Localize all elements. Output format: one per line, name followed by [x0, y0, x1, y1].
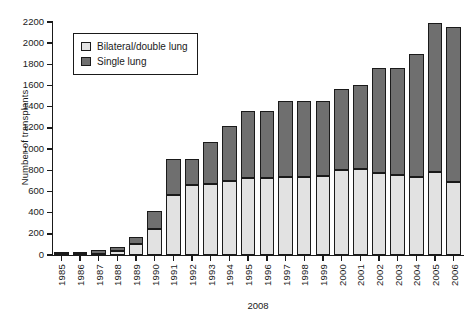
bar-segment-bilateral	[353, 169, 368, 255]
bar-segment-single	[129, 237, 144, 244]
y-tick-label: 600	[28, 185, 44, 196]
y-tick-label: 1400	[23, 100, 44, 111]
legend-swatch-single-icon	[81, 57, 91, 66]
x-axis-line	[52, 255, 464, 256]
y-tick-label: 200	[28, 227, 44, 238]
x-tick-mark	[98, 256, 99, 261]
legend-item-bilateral: Bilateral/double lung	[81, 39, 188, 54]
x-tick-mark	[266, 256, 267, 261]
x-tick-mark	[397, 256, 398, 261]
bar-segment-single	[222, 126, 237, 181]
x-axis-title: 2008	[52, 300, 464, 311]
bar-segment-single	[110, 247, 125, 252]
legend-label-bilateral: Bilateral/double lung	[97, 41, 188, 52]
y-tick-label: 1600	[23, 79, 44, 90]
lung-transplant-stacked-bar-chart: Number of transplants 020040060080010001…	[0, 0, 475, 320]
x-tick-mark	[416, 256, 417, 261]
bar-segment-single	[372, 68, 387, 174]
x-tick-mark	[360, 256, 361, 261]
x-tick-label: 1993	[206, 264, 216, 286]
bar-segment-bilateral	[260, 178, 275, 255]
x-tick-mark	[191, 256, 192, 261]
x-tick-label: 2005	[430, 264, 440, 286]
bar-segment-single	[91, 250, 106, 254]
x-tick-label: 1994	[224, 264, 234, 286]
bar-segment-single	[203, 142, 218, 184]
bar-segment-bilateral	[334, 170, 349, 255]
bar-segment-single	[260, 111, 275, 178]
x-tick-mark	[173, 256, 174, 261]
bar-segment-single	[278, 101, 293, 176]
x-tick-mark	[210, 256, 211, 261]
bar-segment-single	[390, 68, 405, 175]
bar-segment-bilateral	[185, 185, 200, 255]
bar-segment-bilateral	[241, 178, 256, 255]
x-tick-mark	[117, 256, 118, 261]
bar-segment-single	[147, 211, 162, 229]
bar-segment-single	[166, 159, 181, 195]
x-tick-label: 2002	[374, 264, 384, 286]
y-tick-label: 800	[28, 164, 44, 175]
x-tick-label: 1985	[56, 264, 66, 286]
bar-segment-single	[353, 85, 368, 170]
x-tick-label: 1997	[281, 264, 291, 286]
x-tick-mark	[378, 256, 379, 261]
x-tick-label: 2003	[393, 264, 403, 286]
legend-label-single: Single lung	[97, 56, 146, 67]
x-tick-mark	[247, 256, 248, 261]
x-tick-label: 1988	[112, 264, 122, 286]
x-tick-label: 2000	[337, 264, 347, 286]
bar-segment-single	[54, 252, 69, 254]
x-tick-mark	[453, 256, 454, 261]
x-tick-mark	[229, 256, 230, 261]
x-tick-mark	[341, 256, 342, 261]
y-tick-label: 0	[39, 249, 44, 260]
y-tick-label: 2200	[23, 16, 44, 27]
bar-segment-bilateral	[297, 177, 312, 255]
x-tick-label: 1992	[187, 264, 197, 286]
bar-segment-single	[409, 54, 424, 177]
x-tick-label: 1996	[262, 264, 272, 286]
x-tick-mark	[154, 256, 155, 261]
bar-segment-bilateral	[166, 195, 181, 255]
x-tick-mark	[304, 256, 305, 261]
legend-swatch-bilateral-icon	[81, 42, 91, 51]
y-tick-label: 1800	[23, 58, 44, 69]
y-tick-label: 2000	[23, 37, 44, 48]
x-tick-mark	[285, 256, 286, 261]
x-tick-label: 1995	[243, 264, 253, 286]
x-tick-mark	[61, 256, 62, 261]
bar-segment-single	[185, 159, 200, 185]
x-tick-mark	[135, 256, 136, 261]
bar-segment-bilateral	[278, 177, 293, 255]
x-tick-label: 1986	[75, 264, 85, 286]
bar-segment-bilateral	[409, 177, 424, 255]
x-tick-label: 2004	[411, 264, 421, 286]
x-tick-label: 1987	[94, 264, 104, 286]
x-tick-mark	[322, 256, 323, 261]
x-tick-mark	[79, 256, 80, 261]
x-tick-label: 1991	[168, 264, 178, 286]
bar-segment-bilateral	[147, 229, 162, 255]
legend-item-single: Single lung	[81, 54, 188, 69]
bar-segment-bilateral	[446, 182, 461, 255]
bar-segment-bilateral	[372, 173, 387, 255]
bar-segment-bilateral	[203, 184, 218, 255]
x-tick-label: 1990	[150, 264, 160, 286]
y-tick-label: 1200	[23, 121, 44, 132]
x-tick-label: 2006	[449, 264, 459, 286]
x-tick-label: 2001	[355, 264, 365, 286]
bar-segment-bilateral	[316, 176, 331, 255]
bar-segment-single	[297, 101, 312, 176]
bar-segment-bilateral	[222, 181, 237, 255]
bar-segment-single	[73, 252, 88, 254]
bar-segment-single	[316, 101, 331, 175]
x-tick-label: 1999	[318, 264, 328, 286]
bar-segment-single	[446, 27, 461, 182]
bar-segment-single	[334, 89, 349, 171]
bar-segment-single	[241, 111, 256, 178]
x-tick-mark	[434, 256, 435, 261]
bar-segment-bilateral	[129, 244, 144, 255]
bar-segment-single	[428, 23, 443, 172]
x-tick-label: 1989	[131, 264, 141, 286]
